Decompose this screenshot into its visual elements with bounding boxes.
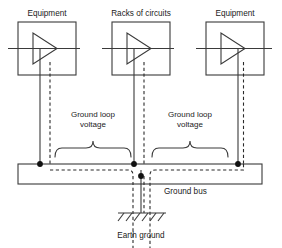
equipment-block-left-label: Equipment bbox=[27, 9, 67, 18]
equipment-block-right-label: Equipment bbox=[215, 9, 255, 18]
ground-loop-brace-right-label-line1: Ground loop bbox=[168, 110, 213, 119]
curly-brace-left-icon bbox=[55, 141, 131, 157]
equipment-block-right: Equipment bbox=[196, 9, 272, 164]
curly-brace-right-icon bbox=[152, 141, 228, 157]
ground-loop-brace-right: Ground loop voltage bbox=[152, 110, 228, 157]
ground-loop-brace-right-label-line2: voltage bbox=[177, 120, 203, 129]
junction-node-left bbox=[37, 161, 43, 167]
junction-node-middle bbox=[131, 161, 137, 167]
ground-loop-diagram: Equipment Racks of circuits Equipment bbox=[0, 0, 282, 248]
racks-block-label: Racks of circuits bbox=[111, 9, 171, 18]
racks-block-middle: Racks of circuits bbox=[102, 9, 174, 176]
junction-node-right bbox=[235, 161, 241, 167]
ground-loop-brace-left: Ground loop voltage bbox=[55, 110, 131, 157]
ground-loop-brace-left-label-line1: Ground loop bbox=[71, 110, 116, 119]
ground-bus-label: Ground bus bbox=[164, 187, 207, 196]
equipment-block-left: Equipment bbox=[8, 9, 80, 170]
ground-loop-brace-left-label-line2: voltage bbox=[80, 120, 106, 129]
earth-ground-hatch-icon bbox=[118, 213, 164, 221]
junction-node-earth bbox=[138, 173, 144, 179]
ground-bus: Ground bus bbox=[18, 164, 262, 196]
diagram-canvas: Equipment Racks of circuits Equipment bbox=[0, 0, 282, 248]
earth-ground-label: Earth ground bbox=[117, 231, 165, 240]
